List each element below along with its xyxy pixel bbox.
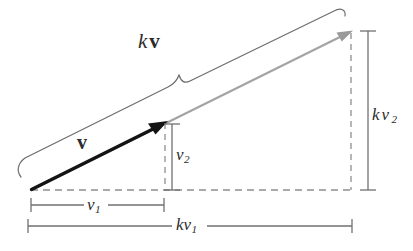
label-v: v bbox=[77, 132, 87, 152]
label-kv1: kv1 bbox=[176, 216, 197, 233]
diagram-canvas bbox=[0, 0, 413, 251]
label-v2: v2 bbox=[176, 146, 190, 163]
label-v2-sub: 2 bbox=[184, 153, 190, 165]
vector-scalar-multiplication-figure: kv v v2 kv2 v1 kv1 bbox=[0, 0, 413, 251]
label-v1-base: v bbox=[87, 195, 95, 214]
label-kv-vector: v bbox=[149, 29, 160, 53]
label-kv2: kv2 bbox=[372, 106, 397, 123]
label-kv2-base: v bbox=[382, 105, 390, 124]
label-v1-sub: 1 bbox=[95, 203, 101, 215]
label-kv-scalar: k bbox=[138, 29, 147, 53]
label-v1: v1 bbox=[87, 196, 101, 213]
vector-v-arrow bbox=[32, 121, 169, 190]
label-kv: kv bbox=[138, 31, 160, 52]
label-v-name: v bbox=[77, 131, 87, 153]
label-kv1-base: v bbox=[184, 215, 192, 234]
label-v2-base: v bbox=[176, 145, 184, 164]
label-kv2-scalar: k bbox=[372, 105, 380, 124]
label-kv1-scalar: k bbox=[176, 215, 184, 234]
label-kv1-sub: 1 bbox=[192, 223, 198, 235]
v-shaft bbox=[32, 127, 158, 190]
label-kv2-sub: 2 bbox=[392, 113, 398, 125]
